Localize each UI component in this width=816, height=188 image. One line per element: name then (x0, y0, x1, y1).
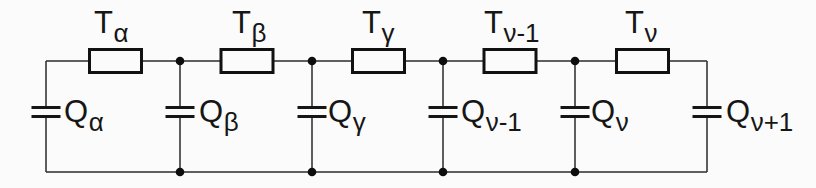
capacitor-symbol (32, 108, 61, 117)
capacitor-label: Qν (591, 96, 629, 127)
capacitor-label-main: Q (726, 94, 751, 129)
capacitor-symbol (166, 108, 195, 117)
capacitor-symbol (561, 108, 590, 117)
node-dot (571, 168, 580, 177)
resistor-symbol (617, 50, 669, 73)
capacitor-label: Qν+1 (726, 96, 793, 127)
capacitor-label-main: Q (461, 94, 486, 129)
capacitor-label-main: Q (64, 94, 89, 129)
resistor-label-subscript: γ (381, 18, 394, 48)
resistor-label-main: T (362, 5, 381, 40)
capacitor-label: Qα (64, 96, 104, 127)
capacitor-label: Qν-1 (461, 96, 522, 127)
capacitor-label-subscript: ν-1 (486, 107, 522, 137)
resistor-label-main: T (484, 5, 503, 40)
capacitor-label-subscript: ν (616, 107, 629, 137)
resistor-symbol (353, 50, 405, 73)
resistor-label: Tγ (362, 7, 394, 38)
capacitor-label-main: Q (199, 94, 224, 129)
resistor-label: Tν (625, 7, 657, 38)
resistor-label-subscript: β (251, 18, 266, 48)
capacitor-symbol (429, 108, 458, 117)
resistor-label: Tβ (232, 7, 266, 38)
capacitor-label-subscript: ν+1 (751, 107, 794, 137)
capacitor-symbol (693, 108, 722, 117)
resistor-label-subscript: ν (644, 18, 657, 48)
resistor-label-main: T (232, 5, 251, 40)
capacitor-label-main: Q (591, 94, 616, 129)
capacitor-label-subscript: γ (353, 107, 366, 137)
capacitor-label: Qγ (328, 96, 366, 127)
node-dot (308, 168, 317, 177)
capacitor-label-subscript: α (89, 107, 104, 137)
node-dot (439, 57, 448, 66)
resistor-symbol (221, 50, 273, 73)
node-dot (176, 168, 185, 177)
resistor-label-main: T (625, 5, 644, 40)
resistor-label-subscript: α (113, 18, 128, 48)
capacitor-symbol (298, 108, 327, 117)
capacitor-label: Qβ (199, 96, 239, 127)
resistor-label-main: T (94, 5, 113, 40)
circuit-diagram: Tα Tβ Tγ Tν-1 Tν Qα Qβ Qγ Qν-1 Qν Qν+1 (0, 0, 816, 188)
resistor-label: Tν-1 (484, 7, 540, 38)
node-dot (308, 57, 317, 66)
capacitor-label-main: Q (328, 94, 353, 129)
node-dot (439, 168, 448, 177)
resistor-symbol (90, 50, 142, 73)
node-dot (176, 57, 185, 66)
resistor-symbol (484, 50, 536, 73)
node-dot (571, 57, 580, 66)
capacitor-label-subscript: β (224, 107, 239, 137)
resistor-label: Tα (94, 7, 128, 38)
resistor-label-subscript: ν-1 (503, 18, 539, 48)
